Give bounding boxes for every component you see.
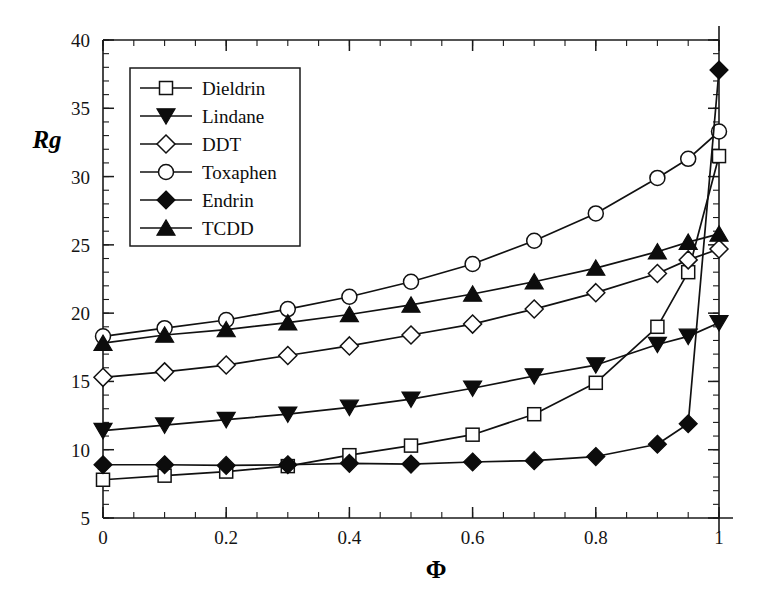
y-tick-label: 20 [71, 303, 90, 324]
diamond-filled-marker [587, 448, 605, 466]
circle-open-marker [159, 165, 174, 180]
square-open-marker [713, 150, 726, 163]
y-tick-label: 15 [71, 371, 90, 392]
diamond-open-marker [279, 346, 297, 364]
diamond-open-marker [710, 240, 728, 258]
circle-open-marker [342, 289, 357, 304]
diamond-filled-marker [679, 415, 697, 433]
series-ddt [94, 240, 728, 386]
legend-label: TCDD [202, 218, 254, 239]
x-axis-title: Φ [426, 556, 447, 583]
y-tick-label: 30 [71, 167, 90, 188]
diamond-open-marker [464, 315, 482, 333]
circle-open-marker [465, 256, 480, 271]
legend-group: DieldrinLindaneDDTToxaphenEndrinTCDD [130, 68, 300, 246]
square-open-marker [651, 320, 664, 333]
diamond-filled-marker [648, 435, 666, 453]
diamond-filled-marker [710, 61, 728, 79]
figure-container: 00.20.40.60.81510152025303540 DieldrinLi… [0, 0, 763, 596]
circle-open-marker [588, 206, 603, 221]
diamond-open-marker [648, 265, 666, 283]
diamond-open-marker [402, 326, 420, 344]
triangle-up-filled-marker [710, 226, 728, 241]
diamond-filled-marker [94, 456, 112, 474]
circle-open-marker [527, 233, 542, 248]
triangle-down-filled-marker [94, 423, 112, 438]
diamond-filled-marker [402, 455, 420, 473]
triangle-up-filled-marker [679, 234, 697, 249]
x-tick-label: 0.8 [584, 527, 608, 548]
x-tick-label: 0.4 [338, 527, 362, 548]
diamond-open-marker [587, 284, 605, 302]
triangle-down-filled-marker [648, 337, 666, 352]
y-tick-label: 40 [71, 30, 90, 51]
diamond-open-marker [525, 300, 543, 318]
triangle-up-filled-marker [525, 274, 543, 289]
square-open-marker [160, 82, 173, 95]
legend-label: Toxaphen [202, 162, 277, 183]
legend-label: Dieldrin [202, 78, 266, 99]
circle-open-marker [681, 151, 696, 166]
x-tick-label: 1 [714, 527, 724, 548]
diamond-open-marker [217, 356, 235, 374]
y-tick-label: 35 [71, 98, 90, 119]
y-tick-label: 5 [81, 508, 91, 529]
square-open-marker [589, 376, 602, 389]
square-open-marker [466, 428, 479, 441]
triangle-down-filled-marker [710, 316, 728, 331]
series-line [103, 249, 719, 377]
diamond-open-marker [94, 368, 112, 386]
y-tick-label: 10 [71, 440, 90, 461]
x-tick-label: 0.6 [461, 527, 485, 548]
circle-open-marker [404, 274, 419, 289]
diamond-filled-marker [525, 452, 543, 470]
circle-open-marker [650, 170, 665, 185]
diamond-open-marker [156, 363, 174, 381]
x-tick-label: 0.2 [214, 527, 238, 548]
x-tick-label: 0 [98, 527, 108, 548]
line-chart: 00.20.40.60.81510152025303540 DieldrinLi… [0, 0, 763, 596]
legend-label: Lindane [202, 106, 264, 127]
diamond-open-marker [340, 337, 358, 355]
triangle-up-filled-marker [587, 260, 605, 275]
square-open-marker [405, 439, 418, 452]
legend-label: Endrin [202, 190, 254, 211]
y-tick-label: 25 [71, 235, 90, 256]
square-open-marker [528, 408, 541, 421]
y-axis-title: Rg [31, 126, 61, 153]
diamond-filled-marker [464, 453, 482, 471]
legend-label: DDT [202, 134, 241, 155]
square-open-marker [97, 473, 110, 486]
triangle-up-filled-marker [648, 244, 666, 259]
